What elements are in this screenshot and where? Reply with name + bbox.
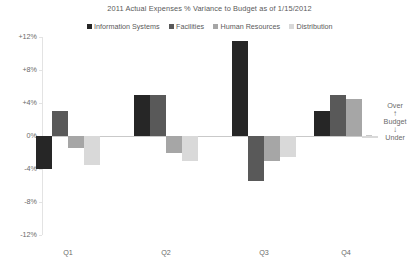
x-axis-tick-label: Q4 <box>326 248 366 257</box>
bar-group <box>134 37 198 235</box>
bar[interactable] <box>84 136 100 165</box>
bar[interactable] <box>264 136 280 161</box>
bar[interactable] <box>150 95 166 136</box>
bar[interactable] <box>182 136 198 161</box>
legend-item[interactable]: Human Resources <box>213 23 280 30</box>
legend-item-label: Distribution <box>297 23 333 30</box>
y-axis-tick-mark <box>39 235 42 236</box>
legend-item-label: Facilities <box>176 23 204 30</box>
square-marker-icon <box>289 24 294 29</box>
bar[interactable] <box>68 136 84 148</box>
bar[interactable] <box>330 95 346 136</box>
bar[interactable] <box>248 136 264 181</box>
bar[interactable] <box>232 41 248 136</box>
square-marker-icon <box>213 24 218 29</box>
bar-group <box>36 37 100 235</box>
x-axis-tick-label: Q2 <box>146 248 186 257</box>
legend-item[interactable]: Distribution <box>289 23 332 30</box>
bar[interactable] <box>346 99 362 136</box>
bar[interactable] <box>134 95 150 136</box>
legend-item[interactable]: Facilities <box>169 23 204 30</box>
plot-area: +12%+8%+4%0%-4%-8%-12%Q1Q2Q3Q4 <box>42 37 370 235</box>
legend-item-label: Information Systems <box>94 23 160 30</box>
square-marker-icon <box>87 24 92 29</box>
zero-line-connector <box>366 135 372 136</box>
square-marker-icon <box>169 24 174 29</box>
bar-group <box>232 37 296 235</box>
legend-item[interactable]: Information Systems <box>87 23 160 30</box>
legend-item-label: Human Resources <box>221 23 281 30</box>
bar[interactable] <box>280 136 296 157</box>
chart-legend: Information SystemsFacilitiesHuman Resou… <box>0 23 419 30</box>
expense-variance-chart: 2011 Actual Expenses % Variance to Budge… <box>0 0 419 257</box>
bar[interactable] <box>314 111 330 136</box>
budget-direction-annotation: Over ↑ Budget ↓ Under <box>372 102 418 142</box>
x-axis-tick-label: Q3 <box>244 248 284 257</box>
bar[interactable] <box>36 136 52 169</box>
chart-title: 2011 Actual Expenses % Variance to Budge… <box>0 4 419 13</box>
bar[interactable] <box>52 111 68 136</box>
bar[interactable] <box>166 136 182 153</box>
under-label: Under <box>372 134 418 142</box>
x-axis-tick-label: Q1 <box>48 248 88 257</box>
bar-group <box>314 37 378 235</box>
